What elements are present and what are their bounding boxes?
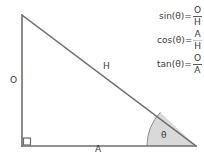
formula-cosine-fraction: A H [193, 30, 202, 51]
side-label-hypotenuse: H [103, 62, 110, 71]
angle-label-theta: θ [161, 131, 167, 140]
formula-tangent-numerator: O [193, 54, 202, 64]
formula-tangent-fraction: O A [193, 54, 202, 75]
side-label-adjacent: A [95, 145, 101, 154]
trigonometry-diagram-canvas: O H A θ sin(θ)= O H cos(θ)= A H tan(θ)= … [0, 0, 204, 160]
formula-sine: sin(θ)= O H [138, 4, 202, 28]
formula-cosine-numerator: A [194, 30, 202, 40]
formula-tangent-lhs: tan(θ)= [157, 59, 192, 69]
formula-sine-numerator: O [193, 6, 202, 16]
formula-cosine-denominator: H [193, 41, 202, 51]
right-angle-marker-icon [24, 138, 31, 145]
side-label-opposite: O [10, 76, 17, 85]
formula-tangent-denominator: A [193, 65, 201, 75]
formula-cosine-lhs: cos(θ)= [157, 35, 192, 45]
trig-formula-list: sin(θ)= O H cos(θ)= A H tan(θ)= O A [138, 4, 202, 76]
formula-sine-denominator: H [193, 17, 202, 27]
formula-sine-lhs: sin(θ)= [159, 11, 192, 21]
formula-tangent: tan(θ)= O A [138, 52, 202, 76]
formula-sine-fraction: O H [193, 6, 202, 27]
formula-cosine: cos(θ)= A H [138, 28, 202, 52]
